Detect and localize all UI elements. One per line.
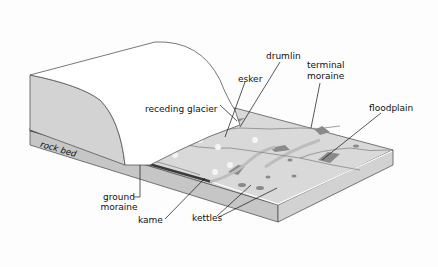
label-terminal-moraine-line2: moraine bbox=[307, 71, 344, 81]
label-esker: esker bbox=[238, 74, 262, 84]
diagram-canvas: receding glacier drumlin esker terminal … bbox=[0, 0, 438, 267]
label-kame: kame bbox=[138, 215, 163, 225]
label-drumlin: drumlin bbox=[266, 51, 301, 61]
label-floodplain: floodplain bbox=[369, 103, 413, 113]
label-kettles: kettles bbox=[192, 213, 222, 223]
label-ground-moraine-line1: ground bbox=[98, 192, 140, 202]
label-ground-moraine-line2: moraine bbox=[98, 202, 140, 212]
glacier-diagram-graphic bbox=[0, 0, 438, 267]
label-receding-glacier: receding glacier bbox=[145, 104, 217, 114]
label-terminal-moraine-line1: terminal bbox=[307, 60, 345, 70]
